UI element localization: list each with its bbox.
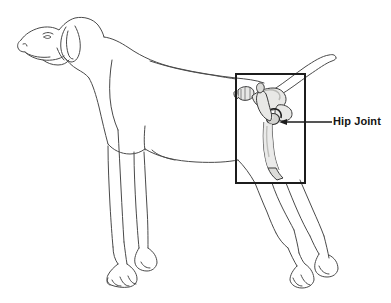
front-paw-near-toe1 <box>112 280 121 286</box>
ear-inner-fold <box>67 31 74 59</box>
nose-nostril <box>23 44 27 46</box>
eye-line <box>44 36 51 39</box>
nose-line <box>18 40 25 52</box>
diagram-canvas: Hip Joint <box>0 0 391 303</box>
belly-line <box>145 149 238 162</box>
front-paw-near-toe3 <box>128 276 136 284</box>
hind-hock-far <box>310 236 319 254</box>
topline-neck-back <box>104 37 236 78</box>
rump-contour <box>236 78 264 83</box>
front-leg-near-front <box>108 146 113 247</box>
hind-paw-near-toe2 <box>301 275 310 285</box>
lip-line <box>25 52 64 60</box>
front-paw-far-toe <box>141 262 150 268</box>
dog-anatomy-illustration <box>0 0 391 303</box>
hind-paw-near <box>290 253 314 288</box>
front-leg-near-pastern <box>113 247 118 264</box>
hind-leg-far-back <box>300 180 324 236</box>
front-leg-far-back <box>144 152 148 248</box>
hind-pastern-near <box>288 248 297 266</box>
front-paw-near-toe2 <box>120 277 129 286</box>
flank-tuck-line <box>144 126 145 150</box>
front-leg-near-back-lower <box>124 242 127 264</box>
hip-joint-label: Hip Joint <box>333 115 381 128</box>
hind-hock-near <box>276 233 288 248</box>
muzzle-top-line <box>21 17 104 40</box>
sacrum-bone <box>238 87 254 101</box>
hind-leg-near-back <box>272 183 294 230</box>
hind-paw-far-toe <box>319 266 329 274</box>
tibia-bone <box>268 168 283 180</box>
greater-trochanter <box>257 83 265 93</box>
hind-leg-near-front <box>255 183 276 233</box>
eye-brow-line <box>43 33 53 35</box>
rear-thigh-front <box>238 160 255 183</box>
shoulder-contour <box>110 60 118 130</box>
hind-paw-near-toe1 <box>293 278 302 286</box>
front-leg-near-back <box>118 130 124 242</box>
chest-front-line <box>89 78 108 144</box>
hind-cannon-far <box>324 236 329 258</box>
dog-outline-group <box>18 17 338 288</box>
brisket-belly-line <box>108 144 145 154</box>
hind-leg-far-front <box>286 183 310 236</box>
ear-outline <box>61 26 81 62</box>
mouth-line <box>26 53 50 57</box>
front-leg-far-front <box>134 152 139 248</box>
hind-cannon-near <box>294 230 299 253</box>
tail-lower-edge <box>280 58 336 95</box>
front-paw-near <box>107 264 137 287</box>
